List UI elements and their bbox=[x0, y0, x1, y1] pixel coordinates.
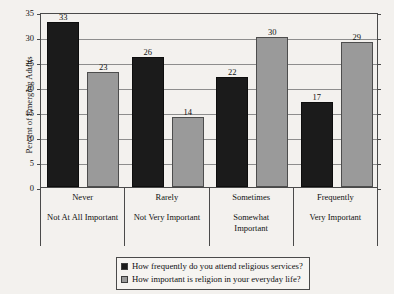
bar-value-label: 29 bbox=[353, 32, 362, 42]
legend-label: How important is religion in your everyd… bbox=[132, 273, 301, 286]
bar-value-label: 14 bbox=[184, 107, 193, 117]
y-axis-tick-mark bbox=[37, 39, 41, 40]
bar: 30 bbox=[256, 37, 288, 187]
category-label-secondary: Not Very Important bbox=[134, 212, 200, 223]
category-label-primary: Rarely bbox=[156, 192, 179, 203]
y-axis-tick-mark bbox=[37, 14, 41, 15]
bar-value-label: 26 bbox=[144, 47, 153, 57]
category-label-secondary: Very Important bbox=[310, 212, 362, 223]
y-axis-tick-mark bbox=[377, 114, 381, 115]
y-axis-tick-mark bbox=[377, 139, 381, 140]
gridline bbox=[41, 39, 377, 40]
bar: 14 bbox=[172, 117, 204, 187]
bar-value-label: 23 bbox=[99, 62, 108, 72]
category-label-cell: FrequentlyVery Important bbox=[294, 188, 377, 246]
category-label-secondary: Not At All Important bbox=[47, 212, 118, 223]
bar-value-label: 33 bbox=[59, 12, 68, 22]
category-label-cell: RarelyNot Very Important bbox=[125, 188, 209, 246]
y-axis-tick-mark bbox=[377, 14, 381, 15]
bar: 22 bbox=[216, 77, 248, 187]
y-axis-tick-mark bbox=[37, 164, 41, 165]
plot-area: 3323261422301729 bbox=[40, 13, 378, 188]
category-label-primary: Never bbox=[72, 192, 93, 203]
y-axis-tick-label: 5 bbox=[8, 158, 34, 168]
chart-root: Percent of Emerging Adults 3323261422301… bbox=[0, 0, 394, 294]
bar: 26 bbox=[132, 57, 164, 187]
category-label-primary: Frequently bbox=[317, 192, 354, 203]
y-axis-tick-mark bbox=[377, 89, 381, 90]
category-label-primary: Sometimes bbox=[232, 192, 270, 203]
y-axis-tick-label: 30 bbox=[8, 33, 34, 43]
y-axis-tick-label: 10 bbox=[8, 133, 34, 143]
y-axis-tick-mark bbox=[377, 164, 381, 165]
category-label-cell: SometimesSomewhat Important bbox=[210, 188, 294, 246]
bar: 23 bbox=[87, 72, 119, 187]
y-axis-tick-mark bbox=[377, 64, 381, 65]
y-axis-tick-label: 25 bbox=[8, 58, 34, 68]
gridline bbox=[41, 64, 377, 65]
legend-item[interactable]: How important is religion in your everyd… bbox=[121, 273, 303, 286]
category-label-table: NeverNot At All ImportantRarelyNot Very … bbox=[40, 188, 378, 246]
y-axis-tick-label: 35 bbox=[8, 8, 34, 18]
y-axis-tick-mark bbox=[37, 64, 41, 65]
bar: 17 bbox=[301, 102, 333, 187]
y-axis-tick-mark bbox=[37, 139, 41, 140]
y-axis-tick-mark bbox=[377, 39, 381, 40]
category-label-secondary: Somewhat Important bbox=[233, 212, 269, 233]
legend-swatch-icon bbox=[121, 276, 128, 283]
legend-label: How frequently do you attend religious s… bbox=[132, 260, 303, 273]
bar-value-label: 30 bbox=[268, 27, 277, 37]
y-axis-tick-label: 15 bbox=[8, 108, 34, 118]
bar: 33 bbox=[47, 22, 79, 187]
y-axis-tick-label: 0 bbox=[8, 183, 34, 193]
chart-legend: How frequently do you attend religious s… bbox=[116, 257, 310, 290]
y-axis-tick-label: 20 bbox=[8, 83, 34, 93]
legend-item[interactable]: How frequently do you attend religious s… bbox=[121, 260, 303, 273]
category-label-cell: NeverNot At All Important bbox=[41, 188, 125, 246]
y-axis-tick-mark bbox=[37, 89, 41, 90]
bar: 29 bbox=[341, 42, 373, 187]
bar-value-label: 22 bbox=[228, 67, 237, 77]
bar-value-label: 17 bbox=[313, 92, 322, 102]
legend-swatch-icon bbox=[121, 263, 128, 270]
y-axis-tick-mark bbox=[37, 114, 41, 115]
